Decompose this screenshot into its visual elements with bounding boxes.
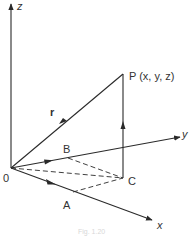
point-c-label: C (128, 175, 136, 187)
vector-oa-arrowhead-icon (46, 179, 56, 185)
vector-cp-arrowhead-icon (121, 121, 126, 129)
origin-label: 0 (3, 172, 9, 184)
vector-diagram: z y x 0 P (x, y, z) B A C r Fig. 1.20 (0, 0, 194, 237)
point-p-label: P (x, y, z) (129, 70, 174, 82)
point-a-label: A (63, 199, 71, 211)
dashed-oc (11, 168, 123, 178)
vector-r-arrowhead-icon (59, 118, 67, 124)
figure-caption: Fig. 1.20 (78, 228, 105, 236)
y-axis-label: y (181, 128, 189, 140)
vector-ob-arrowhead-icon (44, 160, 53, 165)
point-b-label: B (63, 143, 70, 155)
dashed-ac (73, 178, 123, 192)
dashed-bc (68, 158, 123, 178)
x-axis-label: x (156, 219, 163, 231)
vector-r-label: r (50, 106, 55, 118)
z-axis-label: z (16, 0, 23, 12)
y-axis (11, 137, 180, 168)
